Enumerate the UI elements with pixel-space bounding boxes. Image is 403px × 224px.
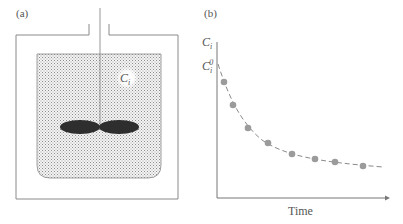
data-point (230, 102, 237, 109)
data-point (332, 159, 339, 166)
data-point (289, 151, 296, 158)
data-point (312, 156, 319, 163)
fit-curve (218, 64, 383, 167)
impeller-blade-left (60, 120, 100, 134)
data-points (221, 79, 367, 170)
panel-b-chart: (b) Ci Ci0 Time (202, 7, 390, 218)
data-point (221, 79, 228, 86)
panel-a-label: (a) (16, 7, 29, 20)
data-point (245, 125, 252, 132)
y-initial-label: Ci0 (202, 58, 213, 75)
panel-a-reactor: (a) Ci (16, 7, 178, 199)
x-axis-label: Time (288, 204, 313, 218)
figure: (a) Ci (b) Ci Ci0 Time (0, 0, 403, 224)
vessel-liquid (37, 54, 161, 178)
x-axis-arrow-icon (385, 196, 390, 201)
data-point (265, 140, 272, 147)
data-point (360, 163, 367, 170)
y-axis-label: Ci (202, 35, 212, 51)
panel-b-label: (b) (204, 7, 217, 20)
impeller-blade-right (99, 120, 139, 134)
